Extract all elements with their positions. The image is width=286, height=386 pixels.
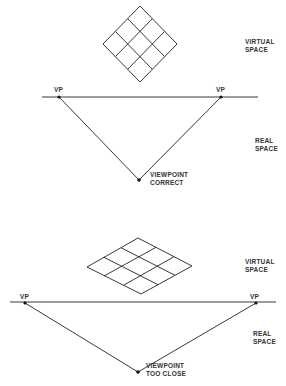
virtual-grid-correct [103, 6, 177, 82]
vp-left-label-correct: VP [54, 86, 63, 94]
vp-right-point-correct [219, 95, 222, 98]
real-space-label-too-close: REAL SPACE [253, 330, 276, 346]
vp-left-point-too-close [23, 301, 26, 304]
viewpoint-point-too-close [136, 370, 140, 374]
sight-lines-too-close [25, 303, 256, 372]
real-space-label-correct: REAL SPACE [255, 137, 278, 153]
vp-right-label-correct: VP [216, 86, 225, 94]
vp-left-point-correct [57, 95, 60, 98]
virtual-grid-too-close [87, 238, 192, 294]
vp-right-label-too-close: VP [250, 293, 259, 301]
sight-lines-correct [59, 97, 221, 180]
vp-left-label-too-close: VP [20, 293, 29, 301]
virtual-space-label-too-close: VIRTUAL SPACE [245, 258, 275, 274]
vp-right-point-too-close [254, 301, 257, 304]
perspective-diagram [0, 0, 286, 386]
viewpoint-label-correct: VIEWPOINT CORRECT [150, 171, 188, 187]
viewpoint-label-too-close: VIEWPOINT TOO CLOSE [146, 362, 186, 378]
virtual-space-label-correct: VIRTUAL SPACE [245, 38, 275, 54]
viewpoint-point-correct [137, 178, 141, 182]
